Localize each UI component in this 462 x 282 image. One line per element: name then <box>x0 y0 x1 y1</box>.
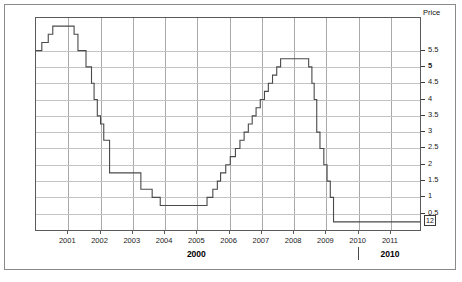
price-step-line <box>36 18 420 230</box>
y-tick-label-4: 4 <box>428 95 432 103</box>
y-tick-3 <box>421 131 425 132</box>
x-tick-2001 <box>67 230 68 234</box>
x-tick-2011 <box>390 230 391 234</box>
decade-label-2000: 2000 <box>166 249 226 259</box>
x-tick-2002 <box>100 230 101 234</box>
y-tick-4 <box>421 99 425 100</box>
y-tick-label-3: 3 <box>428 127 432 135</box>
price-line-path <box>36 26 420 222</box>
x-tick-2004 <box>164 230 165 234</box>
x-tick-2008 <box>293 230 294 234</box>
y-tick-1 <box>421 196 425 197</box>
y-tick-label-5: 5 <box>428 62 432 70</box>
y-tick-0.5 <box>421 213 425 214</box>
x-tick-label-2011: 2011 <box>370 236 410 245</box>
y-tick-2.5 <box>421 147 425 148</box>
x-tick-2005 <box>196 230 197 234</box>
y-axis-title: Price <box>423 8 440 17</box>
x-tick-2006 <box>229 230 230 234</box>
y-tick-5 <box>421 66 425 67</box>
y-tick-2 <box>421 164 425 165</box>
y-tick-label-1.5: 1.5 <box>428 176 438 184</box>
y-tick-label-4.5: 4.5 <box>428 78 438 86</box>
current-value-badge: 12 <box>424 215 436 226</box>
y-tick-3.5 <box>421 115 425 116</box>
decade-label-2010: 2010 <box>360 249 420 259</box>
y-tick-label-2: 2 <box>428 160 432 168</box>
y-tick-1.5 <box>421 180 425 181</box>
x-tick-2009 <box>325 230 326 234</box>
chart-frame: Price 5.554.543.532.521.510.5 2001200220… <box>4 4 456 270</box>
x-tick-2010 <box>358 230 359 234</box>
decade-tick-marker <box>358 247 359 260</box>
x-tick-2003 <box>132 230 133 234</box>
y-tick-4.5 <box>421 82 425 83</box>
y-tick-label-5.5: 5.5 <box>428 46 438 54</box>
plot-area <box>35 17 421 231</box>
x-tick-2007 <box>261 230 262 234</box>
y-tick-label-2.5: 2.5 <box>428 143 438 151</box>
y-tick-label-1: 1 <box>428 192 432 200</box>
y-tick-5.5 <box>421 50 425 51</box>
y-tick-label-3.5: 3.5 <box>428 111 438 119</box>
